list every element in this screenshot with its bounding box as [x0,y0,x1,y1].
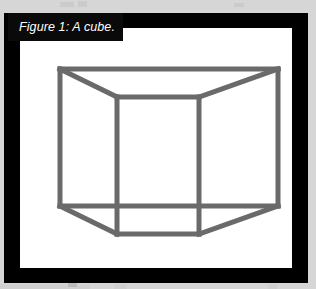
cube-edge-front_bottom_right-to-back_bottom_right [199,206,278,234]
figure-caption-label: Figure 1: A cube. [19,21,115,34]
page-top-artifact [234,3,244,7]
cube-edge-front_top_right-to-back_top_right [199,69,278,97]
cube-edge-front_top_left-to-back_top_left [60,69,117,97]
page-bottom-artifact [114,284,127,289]
page-bottom-artifact [268,284,277,289]
cube-figure [20,28,292,268]
page-top-artifact [78,1,87,7]
figure-caption-banner: Figure 1: A cube. [8,13,123,41]
page-bottom-artifact [68,283,77,287]
page-bottom-artifact [0,284,66,289]
cube-wireframe-svg [20,28,292,268]
cube-edge-front_bottom_left-to-back_bottom_left [60,206,117,234]
cube-edges-group [60,69,278,234]
page-top-artifact [60,2,74,7]
figure-frame: Figure 1: A cube. [4,13,308,283]
